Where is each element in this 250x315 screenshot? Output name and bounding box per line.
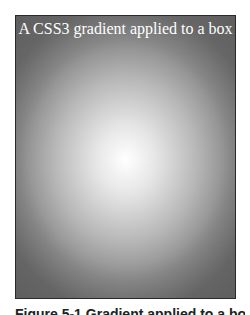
figure-caption: Figure 5-1 Gradient applied to a box (15, 306, 245, 315)
gradient-box: A CSS3 gradient applied to a box (15, 15, 236, 299)
box-title: A CSS3 gradient applied to a box (16, 19, 235, 39)
clipped-previous-line (0, 0, 250, 4)
